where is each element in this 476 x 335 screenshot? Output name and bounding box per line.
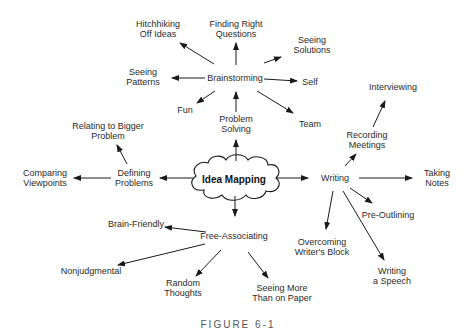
arrow-writing-to-pre-outlining [350,188,372,203]
node-finding-right-questions: Finding Right Questions [209,19,262,39]
node-free-associating: Free-Associating [200,231,268,241]
idea-map-diagram: Idea Mapping Problem SolvingBrainstormin… [0,0,476,335]
arrow-brainstorming-to-self [264,79,297,81]
node-seeing-patterns: Seeing Patterns [126,67,160,87]
arrow-free-associating-to-seeing-more-than-on-paper [248,252,268,278]
node-pre-outlining: Pre-Outlining [362,210,415,220]
node-self: Self [302,77,318,87]
arrow-free-associating-to-random-thoughts [196,250,221,276]
node-relating-to-bigger-problem: Relating to Bigger Problem [72,121,144,141]
node-seeing-more-than-on-paper: Seeing More Than on Paper [252,283,312,303]
node-problem-solving: Problem Solving [219,114,253,134]
node-team: Team [299,119,321,129]
node-interviewing: Interviewing [369,82,417,92]
arrow-brainstorming-to-hitchhiking [180,43,214,64]
node-random-thoughts: Random Thoughts [164,278,202,298]
node-taking-notes: Taking Notes [424,168,450,188]
node-fun: Fun [177,105,193,115]
node-defining-problems: Defining Problems [115,168,153,188]
arrow-brainstorming-to-fun [197,91,215,103]
node-writing: Writing [321,173,349,183]
center-node-label: Idea Mapping [202,174,266,185]
node-nonjudgmental: Nonjudgmental [61,266,122,276]
node-writing-a-speech: Writing a Speech [373,266,411,286]
node-brainstorming: Brainstorming [207,73,263,83]
arrow-writing-to-recording-meetings [345,154,356,166]
figure-caption: FIGURE 6-1 [200,319,275,330]
node-recording-meetings: Recording Meetings [346,130,387,150]
node-seeing-solutions: Seeing Solutions [293,35,330,55]
node-hitchhiking: Hitchhiking Off Ideas [136,19,180,39]
node-brain-friendly: Brain-Friendly [108,219,164,229]
node-overcoming-writers-block: Overcoming Writer's Block [295,237,350,257]
arrow-brainstorming-to-seeing-solutions [264,57,281,63]
arrow-brainstorming-to-team [257,91,293,113]
node-comparing-viewpoints: Comparing Viewpoints [23,168,67,188]
arrow-writing-to-overcoming-writers-block [326,191,333,229]
arrow-recording-meetings-to-interviewing [373,101,385,127]
arrow-free-associating-to-nonjudgmental [118,244,205,265]
arrow-defining-problems-to-relating-to-bigger-problem [117,145,127,164]
